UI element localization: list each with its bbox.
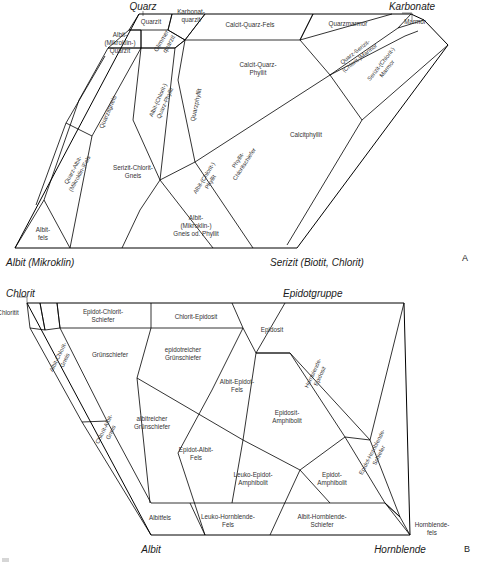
label-calcitphyllit: Calcitphyllit [290,131,322,139]
edge-he-left [290,353,370,440]
label-marmor: Marmor [404,18,426,25]
edge-hf-right [400,517,410,535]
label-quarzphyllit: Quarzphyllit [188,88,203,122]
edge-leuko-top [243,440,300,470]
label-albit-mikroklin-gneis-od-phyllit: Albit-(Mikroklin-)Gneis od. Phyllit [173,214,219,238]
label-calcit-quarz-fels: Calcit-Quarz-Fels [226,21,275,29]
label-epidot-albit-fels: Epidot-Albit-Fels [179,446,213,461]
label-albitfels-b: Albitfels [149,514,171,521]
edge-acp-right [160,180,213,248]
corner-label-hornblende: Hornblende [374,544,426,555]
label-albitfels-a: Albit-fels [36,226,50,241]
label-hornblendefels: Hornblende-fels [415,521,450,536]
diagram-b: Chloritit Epidot-Chlorit-Schiefer Chlori… [0,285,485,563]
edge-left-inner-1 [15,48,108,248]
label-epidot-amphibolit: Epidot-Amphibolit [317,471,347,487]
diagram-b-field-boundaries [27,303,410,535]
edge-acg-left [30,328,151,535]
label-albit-hornblende-schiefer: Albit-Hornblende-Schiefer [297,513,346,528]
label-albitreicher-gruenschiefer: albitreicherGrünschiefer [134,415,170,430]
edge-mid-cross [160,162,195,180]
outline-a [15,14,448,248]
edge-quarzitgneis-cut [66,123,92,136]
corner-label-albit-mikroklin: Albit (Mikroklin) [5,257,74,268]
label-quarzmarmor: Quarzmarmor [329,20,368,28]
figure-root: Quarzit Karbonat-quarzit Albit-(Mikrokli… [0,0,485,563]
label-calcit-quarz-phyllit: Calcit-Quarz-Phyllit [239,61,276,77]
label-leuko-epidot-amphibolit: Leuko-Epidot-Amphibolit [233,471,272,487]
edge-calcitphyllit-right [287,120,362,245]
panel-letter-a: A [462,253,468,263]
label-epidot-hornblende-schiefer: Epidot-Hornblende-Schiefer [357,428,392,479]
label-karbonatquarzit: Karbonat-quarzit [177,8,205,24]
diagram-a: Quarzit Karbonat-quarzit Albit-(Mikrokli… [0,0,485,285]
edge-cqp-diag [195,75,330,162]
label-gruenschiefer: Grünschiefer [92,351,128,358]
edge-epidosit-amph-base [270,437,345,535]
label-chlorit-epidosit: Chlorit-Epidosit [175,313,218,321]
edge-acp-left [122,180,160,248]
label-albit-mikroklin-quarzit: Albit-(Mikroklin-)Quarzit [104,31,135,55]
corner-label-chlorit: Chlorit [6,288,36,299]
edge-right-inner [370,303,404,440]
corner-label-quarz: Quarz [129,1,156,12]
edge-epidosit-base [256,353,345,437]
panel-letter-b: B [464,544,470,554]
corner-label-serizit: Serizit (Biotit, Chlorit) [270,257,364,268]
label-leuko-hornblende-fels: Leuko-Hornblende-Fels [201,513,255,528]
label-quarz-serizit-chlorit-marmor: Quarz-Serizit-(Chlorit-)Marmor [336,36,378,73]
label-quarzit: Quarzit [141,18,162,26]
label-albit-chlorit-gneis: Albit-Chlorit-Gneis [48,341,74,376]
label-quarz-albit-mikroklin-fels: Quarz-Albit-(Mikroklin-)Fels [61,151,92,192]
label-phyllit-chloritschiefer: Phyllit-Chloritschiefer [225,143,257,181]
diagram-a-field-boundaries [15,14,448,248]
diagram-a-labels: Quarzit Karbonat-quarzit Albit-(Mikrokli… [36,8,426,241]
edge-scg-left [70,136,92,248]
label-quarzitgneis: Quarzitgneis [97,94,118,130]
label-albit-chlorit-quarz-phyllit: Albit-(Chlorit-)Quarz-Phyllit [148,82,175,120]
label-chloritit: Chloritit [0,309,19,316]
edge-he-cut [345,437,370,440]
edge-s-marmor-top [405,31,418,36]
edge-hornblendefels-left [385,503,410,535]
outline-b [27,303,410,535]
label-epidotreicher-gruenschiefer: epidotreicherGrünschiefer [165,346,201,361]
corner-label-epidotgruppe: Epidotgruppe [283,288,343,299]
label-hornblende-epidosit: Hornblende-Epidosit [303,357,329,392]
edge-hf-top [385,503,400,517]
edge-chloritit-2 [40,303,60,330]
label-epidosit-amphibolit: Epidosit-Amphibolit [272,409,302,425]
label-albit-epidot-fels: Albit-Epidot-Fels [220,378,254,393]
label-epidosit: Epidosit [261,326,284,334]
label-serizit-chlorit-gneis: Serizit-Chlorit-Gneis [113,164,153,179]
corner-label-karbonate: Karbonate [389,1,436,12]
label-albit-chlorit-phyllit: Albit-(Chlorit-)Phyllit [192,161,222,199]
edge-eaf-right [178,453,205,535]
label-chlorit-albit-gneis: Chlorit-Albit-Gneis [94,413,120,448]
edge-calcit-boundary-a [330,75,362,120]
edge-albitfels-right [44,200,70,248]
corner-label-albit: Albit [140,544,162,555]
page-edge-artifact [2,558,9,562]
edge-s-marmor-diag [362,45,448,120]
label-epidot-chlorit-schiefer: Epidot-Chlorit-Schiefer [83,308,123,323]
edge-quarzmarmor [300,14,392,40]
